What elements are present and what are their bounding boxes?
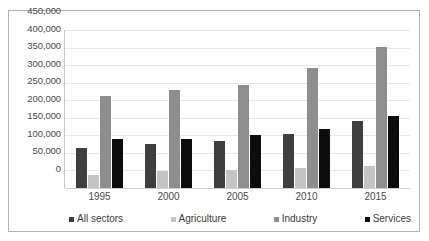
x-axis-tick-labels: 19952000200520102015 (65, 191, 410, 205)
x-axis-tick-label: 2005 (203, 191, 272, 205)
legend-item-label: All sectors (77, 213, 123, 225)
bar (295, 168, 306, 188)
y-axis-tick-label: 200,000 (15, 94, 61, 104)
bar-group (65, 30, 134, 188)
legend-swatch-icon (274, 217, 279, 222)
chart-frame: 050,000100,000150,000200,000250,000300,0… (8, 10, 420, 232)
y-axis-tick-label: 250,000 (15, 76, 61, 86)
legend-item-label: Industry (282, 213, 318, 225)
bar (364, 166, 375, 188)
bar (307, 68, 318, 188)
bar (181, 139, 192, 188)
legend-item[interactable]: Agriculture (171, 213, 227, 225)
plot-area (65, 30, 410, 188)
bar (352, 121, 363, 188)
y-axis-tick-label: 150,000 (15, 111, 61, 121)
y-axis-tick-label: 400,000 (15, 24, 61, 34)
bar-group (134, 30, 203, 188)
legend-swatch-icon (171, 217, 176, 222)
legend-item-label: Services (373, 213, 411, 225)
bar (88, 175, 99, 188)
bar (388, 116, 399, 188)
x-axis-tick-label: 2000 (134, 191, 203, 205)
bar-groups (65, 30, 410, 188)
x-axis-tick-label: 2010 (272, 191, 341, 205)
y-axis-tick-label: 350,000 (15, 41, 61, 51)
bar (76, 148, 87, 188)
bar (169, 90, 180, 188)
y-axis-tick-labels: 050,000100,000150,000200,000250,000300,0… (17, 11, 65, 169)
bar (319, 129, 330, 188)
y-axis-tick-label: 300,000 (15, 59, 61, 69)
bar-group (341, 30, 410, 188)
chart-legend: All sectorsAgricultureIndustryServices (65, 211, 415, 227)
bar (226, 170, 237, 188)
gridline (65, 188, 410, 189)
bar (376, 47, 387, 188)
legend-swatch-icon (69, 217, 74, 222)
y-axis-tick-label: 0 (15, 164, 61, 174)
bar (112, 139, 123, 188)
y-axis-tick-label: 450,000 (15, 6, 61, 16)
x-axis-tick-label: 1995 (65, 191, 134, 205)
bar-group (272, 30, 341, 188)
x-axis-tick-label: 2015 (341, 191, 410, 205)
bar (145, 144, 156, 188)
bar-group (203, 30, 272, 188)
bar (157, 171, 168, 188)
bar (238, 85, 249, 188)
y-axis-tick-label: 50,000 (15, 146, 61, 156)
bar (100, 96, 111, 188)
y-axis-tick-label: 100,000 (15, 129, 61, 139)
bar (283, 134, 294, 188)
legend-item[interactable]: All sectors (69, 213, 123, 225)
legend-item[interactable]: Industry (274, 213, 318, 225)
legend-item-label: Agriculture (179, 213, 227, 225)
legend-item[interactable]: Services (365, 213, 411, 225)
legend-swatch-icon (365, 217, 370, 222)
bar (250, 135, 261, 188)
bar (214, 141, 225, 188)
